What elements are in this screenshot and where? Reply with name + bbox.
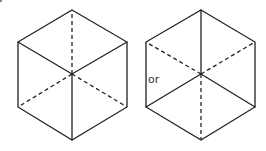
solid-edge-center-upper-right (72, 42, 127, 74)
cube-diagram: or (0, 0, 266, 151)
dashed-edge-center-upper-right (201, 42, 255, 74)
solid-edge-center-lower-right (201, 74, 255, 107)
cube-figure-left (18, 10, 127, 140)
or-label: or (148, 73, 160, 86)
dashed-edge-center-upper-left (146, 42, 201, 74)
corner-speck (0, 0, 2, 2)
solid-edge-center-upper-left (18, 42, 72, 74)
dashed-edge-center-lower-left (18, 74, 72, 107)
dashed-edge-center-lower-right (72, 74, 127, 107)
cube-figure-right (146, 10, 255, 140)
